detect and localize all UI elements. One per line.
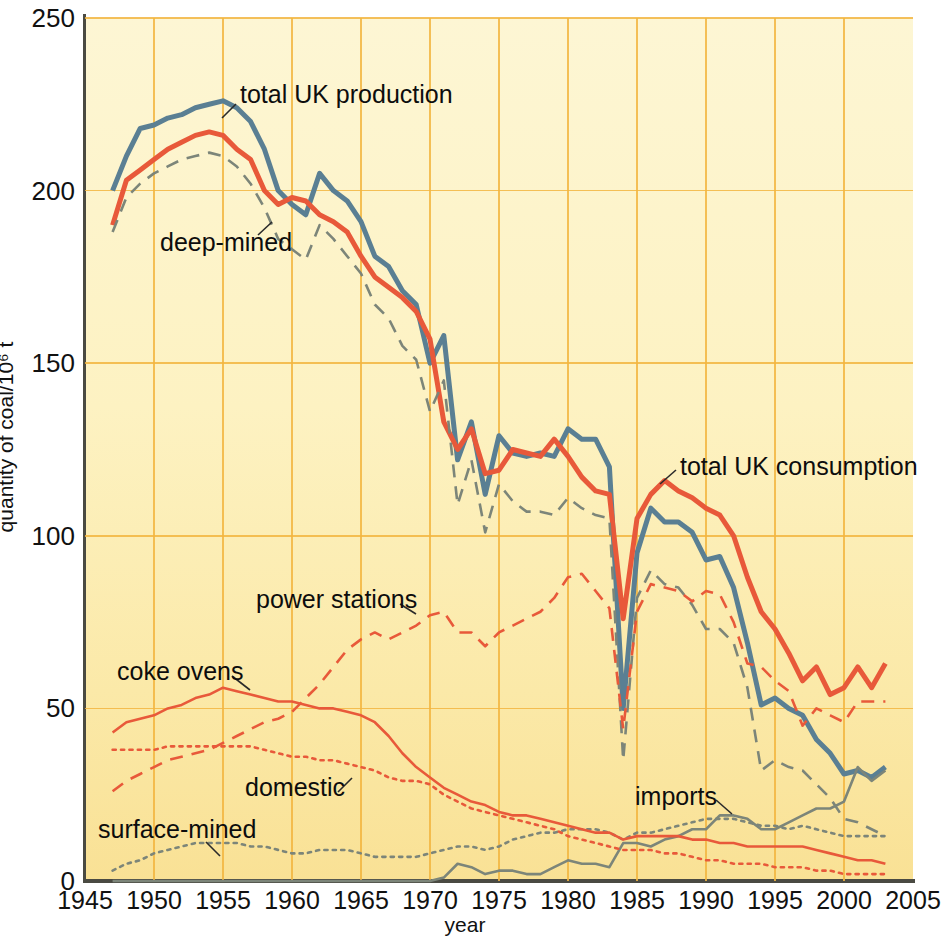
series-line-total-uk-consumption [113, 132, 886, 695]
annotation-domestic: domestic [245, 773, 345, 802]
annotation-total-consumption: total UK consumption [680, 452, 918, 481]
annotation-deep-mined: deep-mined [160, 228, 292, 257]
leader-imports [716, 800, 732, 814]
annotation-power-stations: power stations [256, 585, 417, 614]
annotation-coke-ovens: coke ovens [117, 657, 243, 686]
annotation-total-production: total UK production [240, 80, 453, 109]
annotation-imports: imports [635, 782, 717, 811]
annotation-surface-mined: surface-mined [98, 815, 256, 844]
